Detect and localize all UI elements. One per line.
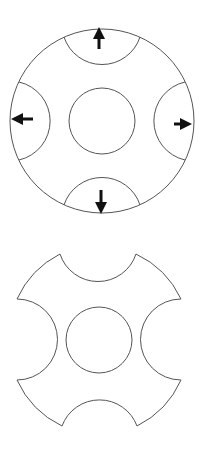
inner-circle xyxy=(69,88,135,154)
notch-top-arc xyxy=(64,37,140,65)
notch-left-arc xyxy=(19,82,50,160)
inner-circle-bottom xyxy=(66,307,132,373)
figure-bottom xyxy=(17,254,181,426)
outer-circle xyxy=(10,29,194,213)
notch-right-arc xyxy=(154,82,185,160)
diagram-canvas xyxy=(0,0,200,450)
notched-outline xyxy=(17,254,181,426)
figure-top xyxy=(10,29,194,213)
arrows xyxy=(17,33,186,208)
